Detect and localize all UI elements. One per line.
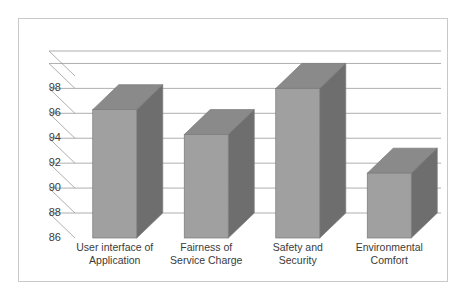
- x-category-label: Fairness ofService Charge: [156, 241, 256, 267]
- x-category-label-line: User interface of: [65, 241, 165, 254]
- x-axis-category-labels: User interface ofApplicationFairness ofS…: [19, 19, 449, 283]
- x-category-label: EnvironmentalComfort: [339, 241, 439, 267]
- x-category-label-line: Comfort: [339, 254, 439, 267]
- x-category-label-line: Environmental: [339, 241, 439, 254]
- plot-area: 86889092949698 User interface ofApplicat…: [19, 19, 449, 283]
- x-category-label-line: Fairness of: [156, 241, 256, 254]
- x-category-label-line: Safety and: [248, 241, 348, 254]
- x-category-label-line: Application: [65, 254, 165, 267]
- x-category-label: Safety andSecurity: [248, 241, 348, 267]
- chart-frame: 86889092949698 User interface ofApplicat…: [18, 18, 448, 282]
- x-category-label: User interface ofApplication: [65, 241, 165, 267]
- x-category-label-line: Service Charge: [156, 254, 256, 267]
- x-category-label-line: Security: [248, 254, 348, 267]
